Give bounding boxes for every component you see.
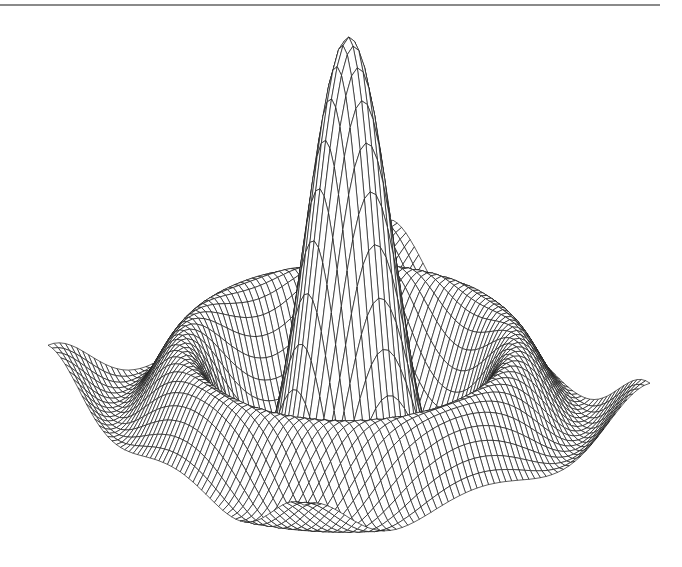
surface-plot: [0, 0, 682, 567]
wireframe-mesh: [48, 37, 650, 532]
